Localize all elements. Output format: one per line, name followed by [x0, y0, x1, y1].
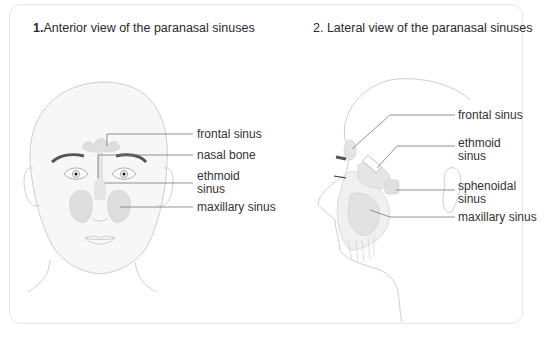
label-ethmoid-sinus-anterior: ethmoidsinus: [197, 170, 240, 196]
label-nasal-bone: nasal bone: [197, 149, 256, 162]
sphenoidal-sinus-lateral: [385, 180, 399, 194]
lateral-skull: [337, 140, 399, 262]
lateral-eyebrow: [336, 157, 346, 159]
label-ethmoid-sinus-lateral: ethmoidsinus: [458, 137, 501, 163]
label-maxillary-sinus-lateral: maxillary sinus: [458, 211, 537, 224]
ethmoid-sinus-shape: [94, 179, 106, 200]
anatomy-illustration: [0, 0, 555, 351]
label-frontal-sinus-lateral: frontal sinus: [458, 109, 523, 122]
label-maxillary-sinus-anterior: maxillary sinus: [197, 201, 276, 214]
label-frontal-sinus-anterior: frontal sinus: [197, 128, 262, 141]
label-sphenoidal-sinus: sphenoidalsinus: [458, 180, 516, 206]
frontal-sinus-lateral: [344, 140, 356, 160]
